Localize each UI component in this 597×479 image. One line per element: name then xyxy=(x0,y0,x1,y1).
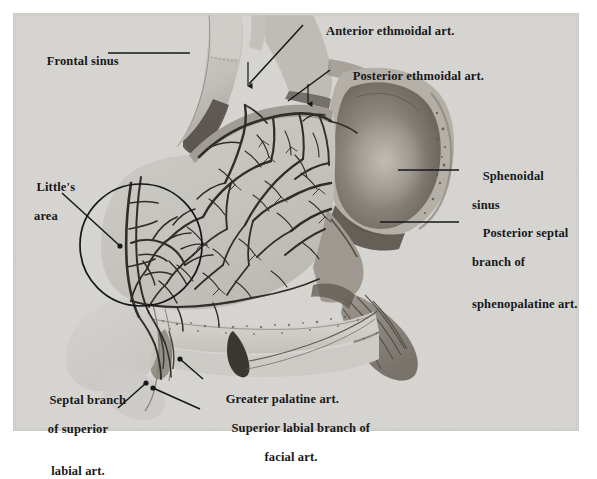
label-superior-labial-branch-facial: Superior labial branch of facial art. xyxy=(203,407,379,479)
label-anterior-ethmoidal-artery: Anterior ethmoidal art. xyxy=(307,10,455,53)
label-posterior-septal-branch: Posterior septal branch of sphenopalatin… xyxy=(463,212,578,340)
label-littles-area: Little's area xyxy=(12,166,80,251)
label-septal-branch-superior-labial: Septal branch of superior labial art. xyxy=(26,379,130,479)
label-posterior-ethmoidal-artery: Posterior ethmoidal art. xyxy=(333,55,484,98)
label-frontal-sinus: Frontal sinus xyxy=(27,40,119,83)
